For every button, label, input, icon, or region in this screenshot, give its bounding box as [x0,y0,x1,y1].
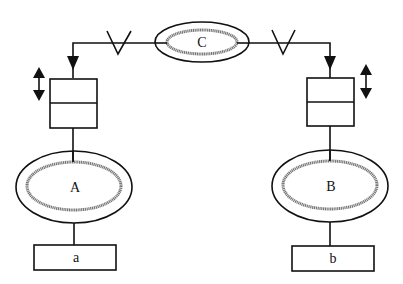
node-c[interactable]: C [155,22,250,62]
double-arrow-left-icon [33,67,45,101]
node-b[interactable]: B [272,150,388,222]
right-stack[interactable] [307,78,354,126]
double-arrow-right-icon [360,64,372,99]
node-a-label: A [70,180,81,195]
v-marker-right-icon [272,30,295,54]
node-b-box-label: b [330,251,337,266]
arrow-down-left-icon [67,56,79,70]
left-stack[interactable] [50,79,97,128]
node-b-box[interactable]: b [292,246,374,271]
node-c-label: C [197,35,206,50]
node-a-box[interactable]: a [34,245,116,270]
node-b-label: B [326,179,335,194]
arrow-down-right-icon [324,56,336,70]
node-a[interactable]: A [16,151,132,223]
diagram-canvas: C A B a [0,0,403,284]
node-a-box-label: a [73,250,80,265]
